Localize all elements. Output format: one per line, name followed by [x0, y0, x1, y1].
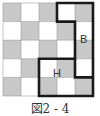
figure-caption: 図2 - 4: [0, 99, 100, 116]
grid-cell: [57, 77, 75, 96]
checkerboard-grid: [0, 0, 100, 100]
grid-cell: [75, 59, 93, 78]
grid-cell: [3, 77, 21, 96]
checkerboard-figure: B H 図2 - 4: [0, 0, 100, 116]
grid-cell: [3, 40, 21, 59]
grid-cell: [39, 22, 57, 41]
grid-cell: [21, 59, 39, 78]
grid-cell: [21, 77, 39, 96]
label-b: B: [80, 33, 87, 45]
grid-cell: [21, 22, 39, 41]
grid-cell: [39, 40, 57, 59]
grid-cell: [75, 3, 93, 22]
grid-cell: [57, 22, 75, 41]
grid-cell: [3, 59, 21, 78]
grid-cell: [21, 40, 39, 59]
grid-cell: [3, 3, 21, 22]
grid-cell: [75, 77, 93, 96]
grid-cell: [39, 77, 57, 96]
grid-cells: [3, 3, 93, 96]
grid-cell: [57, 3, 75, 22]
label-h: H: [53, 67, 61, 79]
grid-cell: [39, 3, 57, 22]
grid-cell: [3, 22, 21, 41]
grid-cell: [21, 3, 39, 22]
grid-cell: [57, 40, 75, 59]
